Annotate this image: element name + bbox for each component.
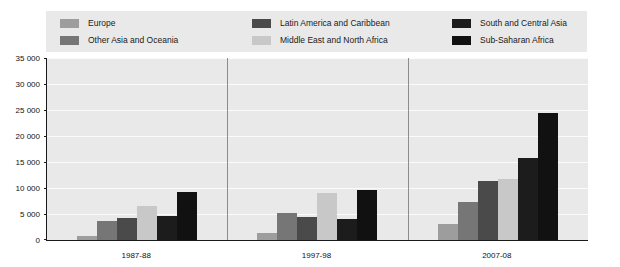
y-axis-labels: 35 00030 00025 00020 00015 00010 0005 00… [0, 52, 44, 242]
x-axis-labels: 1987-881997-982007-08 [46, 246, 587, 266]
bar[interactable] [357, 190, 377, 240]
y-axis-tick-label: 25 000 [16, 106, 40, 115]
bar-group [408, 58, 588, 240]
legend-column-1: EuropeOther Asia and Oceania [46, 11, 242, 52]
legend-columns: EuropeOther Asia and OceaniaLatin Americ… [46, 11, 587, 52]
legend-swatch-icon [452, 19, 471, 28]
bar[interactable] [117, 218, 137, 240]
y-axis-tick-label: 0 [36, 236, 40, 245]
bar[interactable] [478, 181, 498, 240]
legend-item[interactable]: Middle East and North Africa [252, 34, 442, 46]
y-axis-tick-label: 20 000 [16, 132, 40, 141]
plot-wrapper: 35 00030 00025 00020 00015 00010 0005 00… [0, 52, 620, 267]
y-axis-tick-label: 5 000 [20, 210, 40, 219]
legend-label: South and Central Asia [480, 18, 567, 28]
y-axis-tick-label: 15 000 [16, 158, 40, 167]
bar[interactable] [297, 217, 317, 240]
x-axis-tick-label: 1987-88 [46, 246, 226, 266]
legend-item[interactable]: Europe [60, 17, 242, 29]
legend-label: Latin America and Caribbean [280, 18, 390, 28]
legend-swatch-icon [60, 19, 79, 28]
y-axis-tick-label: 10 000 [16, 184, 40, 193]
bar[interactable] [97, 221, 117, 240]
bar[interactable] [77, 236, 97, 240]
x-axis-tick-label: 2007-08 [407, 246, 587, 266]
legend-item[interactable]: Other Asia and Oceania [60, 34, 242, 46]
plot-area [46, 58, 588, 241]
x-axis-tick-label: 1997-98 [226, 246, 406, 266]
bar-groups [47, 58, 588, 240]
legend-label: Other Asia and Oceania [88, 35, 178, 45]
bar[interactable] [538, 113, 558, 240]
legend-item[interactable]: Sub-Saharan Africa [452, 34, 587, 46]
bar[interactable] [317, 193, 337, 240]
bar[interactable] [498, 179, 518, 240]
legend-swatch-icon [452, 36, 471, 45]
bar[interactable] [518, 158, 538, 240]
bar[interactable] [438, 224, 458, 240]
group-separator [408, 58, 409, 240]
legend-label: Middle East and North Africa [280, 35, 388, 45]
bar[interactable] [458, 202, 478, 240]
legend-column-2: Latin America and CaribbeanMiddle East a… [242, 11, 442, 52]
group-separator [227, 58, 228, 240]
bar[interactable] [277, 213, 297, 240]
y-axis-tick-label: 35 000 [16, 54, 40, 63]
legend-column-3: South and Central AsiaSub-Saharan Africa [442, 11, 587, 52]
legend-swatch-icon [252, 36, 271, 45]
bar[interactable] [137, 206, 157, 240]
bar-chart: EuropeOther Asia and OceaniaLatin Americ… [0, 0, 620, 267]
bar[interactable] [337, 219, 357, 240]
bar-group [227, 58, 407, 240]
legend-swatch-icon [60, 36, 79, 45]
bar[interactable] [177, 192, 197, 240]
legend-item[interactable]: Latin America and Caribbean [252, 17, 442, 29]
bar-group [47, 58, 227, 240]
legend-item[interactable]: South and Central Asia [452, 17, 587, 29]
legend-label: Sub-Saharan Africa [480, 35, 554, 45]
y-axis-tick-label: 30 000 [16, 80, 40, 89]
bar[interactable] [257, 233, 277, 240]
legend-swatch-icon [252, 19, 271, 28]
chart-legend: EuropeOther Asia and OceaniaLatin Americ… [46, 11, 587, 52]
bar[interactable] [157, 216, 177, 240]
legend-label: Europe [88, 18, 115, 28]
